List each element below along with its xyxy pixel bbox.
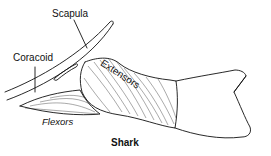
foramen bbox=[54, 64, 78, 80]
scapula-leader bbox=[74, 20, 87, 48]
figure-title: Shark bbox=[111, 138, 139, 148]
label-flexors: Flexors bbox=[42, 117, 73, 127]
fin-outline bbox=[175, 70, 251, 138]
fin-ray-edge bbox=[234, 76, 246, 92]
label-coracoid: Coracoid bbox=[13, 53, 53, 63]
label-scapula: Scapula bbox=[52, 9, 88, 19]
